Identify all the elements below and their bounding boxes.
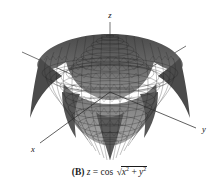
caption-function: cos (101, 167, 114, 177)
axis-label-y: y (201, 124, 206, 134)
axis-label-x: x (30, 144, 35, 154)
caption-panel-tag: (B) (72, 167, 85, 177)
radicand: x2 + y2 (121, 166, 147, 177)
radicand-term2-exp: 2 (143, 166, 146, 172)
caption-radical: √x2 + y2 (116, 166, 148, 177)
figure-caption: (B) z = cos √x2 + y2 (0, 166, 219, 177)
surface-plot: z x y (0, 0, 219, 168)
axis-label-z: z (107, 10, 112, 20)
figure-panel: z x y (B) z = cos √x2 + y2 (0, 0, 219, 192)
